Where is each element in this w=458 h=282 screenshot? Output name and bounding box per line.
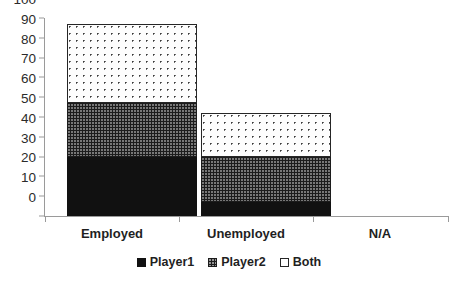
bar-stack-employed[interactable] xyxy=(67,18,197,216)
legend-swatch-both-icon xyxy=(280,258,289,267)
y-tick-mark-70 xyxy=(39,77,44,78)
y-tick-label-60: 60 xyxy=(21,72,36,86)
y-tick-mark-100 xyxy=(39,18,44,19)
legend-item-player2[interactable]: Player2 xyxy=(208,256,265,269)
bar-segment-unemployed-player2[interactable] xyxy=(201,157,331,203)
x-axis-line xyxy=(44,216,449,217)
y-axis-tick-labels: 0 10 20 30 40 50 60 70 80 90 100 xyxy=(0,0,42,225)
x-category-label-na: N/A xyxy=(369,226,391,241)
bar-segment-unemployed-both[interactable] xyxy=(201,113,331,157)
y-tick-mark-90 xyxy=(39,37,44,38)
y-tick-label-40: 40 xyxy=(21,112,36,126)
y-tick-label-80: 80 xyxy=(21,33,36,47)
y-tick-label-70: 70 xyxy=(21,53,36,67)
x-category-label-unemployed: Unemployed xyxy=(207,226,285,241)
y-tick-mark-20 xyxy=(39,176,44,177)
x-category-label-employed: Employed xyxy=(81,226,143,241)
y-tick-mark-60 xyxy=(39,97,44,98)
y-tick-mark-80 xyxy=(39,57,44,58)
chart-legend: Player1 Player2 Both xyxy=(0,256,458,269)
y-tick-label-30: 30 xyxy=(21,132,36,146)
x-tick-mark-end xyxy=(448,217,449,222)
x-tick-mark-employed xyxy=(179,217,180,222)
bar-stack-unemployed[interactable] xyxy=(201,18,331,216)
y-tick-label-90: 90 xyxy=(21,13,36,27)
bar-segment-employed-player1[interactable] xyxy=(67,157,197,216)
bar-stack-na[interactable] xyxy=(335,18,458,216)
y-tick-mark-40 xyxy=(39,136,44,137)
y-tick-mark-30 xyxy=(39,156,44,157)
bar-segment-employed-both[interactable] xyxy=(67,24,197,103)
legend-label-player1: Player1 xyxy=(150,256,194,269)
legend-label-both: Both xyxy=(293,256,321,269)
y-tick-label-100: 100 xyxy=(13,0,36,7)
x-tick-mark-start xyxy=(45,217,46,222)
y-tick-mark-10 xyxy=(39,196,44,197)
bar-segment-employed-player2[interactable] xyxy=(67,103,197,156)
plot-area xyxy=(45,18,449,216)
legend-swatch-player2-icon xyxy=(208,258,217,267)
y-tick-mark-50 xyxy=(39,117,44,118)
legend-item-player1[interactable]: Player1 xyxy=(137,256,194,269)
y-tick-label-0: 0 xyxy=(28,191,36,205)
stacked-bar-chart: 0 10 20 30 40 50 60 70 80 90 100 xyxy=(0,0,458,282)
y-tick-label-20: 20 xyxy=(21,152,36,166)
legend-label-player2: Player2 xyxy=(221,256,265,269)
y-tick-label-50: 50 xyxy=(21,92,36,106)
legend-swatch-player1-icon xyxy=(137,258,146,267)
bar-segment-unemployed-player1[interactable] xyxy=(201,202,331,216)
y-tick-label-10: 10 xyxy=(21,171,36,185)
x-tick-mark-unemployed xyxy=(313,217,314,222)
legend-item-both[interactable]: Both xyxy=(280,256,321,269)
